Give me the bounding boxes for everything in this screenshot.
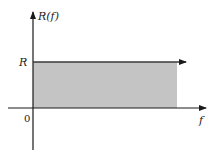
resistance-frequency-diagram: R(f) R 0 f — [0, 0, 215, 157]
shaded-region — [33, 62, 177, 108]
y-axis-label: R(f) — [37, 10, 59, 23]
level-label: R — [18, 56, 27, 69]
origin-label: 0 — [24, 113, 30, 124]
x-axis-label: f — [198, 114, 205, 127]
